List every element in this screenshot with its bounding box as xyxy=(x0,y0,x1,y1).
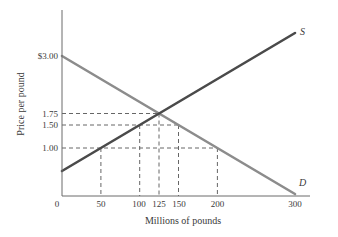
demand-curve xyxy=(62,56,295,194)
supply-label: S xyxy=(300,26,305,37)
demand-label: D xyxy=(298,177,307,188)
y-axis-title: Price per pound xyxy=(15,72,26,135)
x-axis-title: Millions of pounds xyxy=(145,215,221,226)
x-tick-0: 0 xyxy=(55,199,60,209)
y-tick-1.50: 1.50 xyxy=(42,120,58,130)
y-tick-1.00: 1.00 xyxy=(42,143,58,153)
supply-curve xyxy=(62,33,295,171)
x-tick-50: 50 xyxy=(96,199,106,209)
x-tick-125: 125 xyxy=(152,199,166,209)
x-tick-300: 300 xyxy=(288,199,302,209)
x-tick-100: 100 xyxy=(132,199,146,209)
x-tick-200: 200 xyxy=(211,199,225,209)
y-tick-3.00: $3.00 xyxy=(38,51,59,61)
supply-demand-chart: S D $3.00 1.75 1.50 1.00 0 50 100 125 15… xyxy=(0,0,338,237)
x-tick-150: 150 xyxy=(172,199,186,209)
y-tick-1.75: 1.75 xyxy=(42,109,58,119)
